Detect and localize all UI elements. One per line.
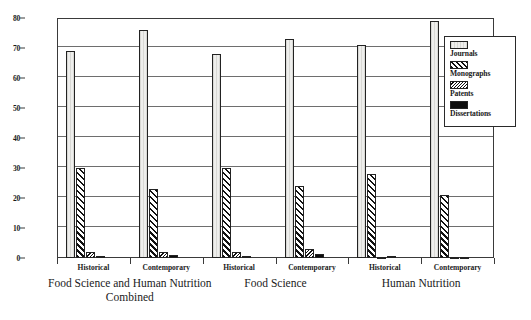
y-tick-label-70: 70 [13, 44, 20, 53]
y-tick-label-50: 50 [13, 104, 20, 113]
gridline-10 [58, 226, 493, 227]
dissertations-swatch [450, 101, 468, 109]
gridline-50 [58, 106, 493, 107]
bar-patents [86, 252, 95, 258]
y-tick-mark-30 [20, 168, 25, 169]
gridline-70 [58, 46, 493, 47]
y-tick-label-60: 60 [13, 74, 20, 83]
chart-legend: JournalsMonographsPatentsDissertations [444, 36, 516, 127]
x-group-label: Food Science [244, 276, 306, 290]
bar-dissertations [387, 256, 396, 258]
bar-dissertations [169, 255, 178, 258]
x-subgroup-label-historical: Historical [369, 263, 401, 272]
bar-monographs [76, 168, 85, 258]
x-subgroup-tick [57, 258, 58, 264]
x-subgroup-label-historical: Historical [223, 263, 255, 272]
y-tick-label-10: 10 [13, 224, 20, 233]
bar-patents [305, 249, 314, 258]
bar-journals [212, 54, 221, 258]
bar-dissertations [242, 256, 251, 258]
legend-label-dissertations: Dissertations [450, 109, 510, 118]
y-tick-label-80: 80 [13, 14, 20, 23]
bar-dissertations [315, 254, 324, 258]
y-tick-mark-10 [20, 228, 25, 229]
y-tick-label-20: 20 [13, 194, 20, 203]
y-tick-mark-50 [20, 108, 25, 109]
x-group-label: Food Science and Human Nutrition Combine… [48, 276, 212, 305]
x-subgroup-tick [421, 258, 422, 264]
y-tick-mark-40 [20, 138, 25, 139]
gridline-40 [58, 136, 493, 137]
bar-journals [66, 51, 75, 258]
x-subgroup-tick [276, 258, 277, 264]
bar-journals [430, 21, 439, 258]
y-tick-label-30: 30 [13, 164, 20, 173]
x-subgroup-label-historical: Historical [78, 263, 110, 272]
bar-chart-figure: 01020304050607080 HistoricalContemporary… [0, 0, 531, 320]
y-tick-mark-20 [20, 198, 25, 199]
legend-label-patents: Patents [450, 89, 510, 98]
bar-journals [357, 45, 366, 258]
x-group-label: Human Nutrition [382, 276, 461, 290]
bar-journals [139, 30, 148, 258]
bar-patents [232, 252, 241, 258]
bar-patents [377, 257, 386, 259]
y-tick-mark-0 [20, 258, 25, 259]
x-subgroup-label-contemporary: Contemporary [434, 263, 482, 272]
plot-area [57, 18, 494, 258]
x-subgroup-label-contemporary: Contemporary [288, 263, 336, 272]
gridline-20 [58, 196, 493, 197]
bar-dissertations [460, 257, 469, 259]
x-subgroup-tick [348, 258, 349, 264]
y-tick-mark-70 [20, 48, 25, 49]
monographs-swatch [450, 61, 468, 69]
legend-label-monographs: Monographs [450, 69, 510, 78]
bar-dissertations [96, 256, 105, 258]
bar-monographs [367, 174, 376, 258]
legend-label-journals: Journals [450, 49, 510, 58]
bar-monographs [149, 189, 158, 258]
patents-swatch [450, 81, 468, 89]
x-subgroup-tick [494, 258, 495, 264]
y-tick-label-40: 40 [13, 134, 20, 143]
y-axis: 01020304050607080 [0, 0, 57, 276]
bar-monographs [295, 186, 304, 258]
y-tick-mark-60 [20, 78, 25, 79]
x-subgroup-tick [203, 258, 204, 264]
journals-swatch [450, 41, 468, 49]
x-subgroup-label-contemporary: Contemporary [143, 263, 191, 272]
gridline-60 [58, 76, 493, 77]
bar-monographs [440, 195, 449, 258]
bar-patents [450, 257, 459, 259]
bar-monographs [222, 168, 231, 258]
gridline-30 [58, 166, 493, 167]
y-tick-mark-80 [20, 18, 25, 19]
bar-patents [159, 252, 168, 258]
x-subgroup-tick [130, 258, 131, 264]
bar-journals [285, 39, 294, 258]
